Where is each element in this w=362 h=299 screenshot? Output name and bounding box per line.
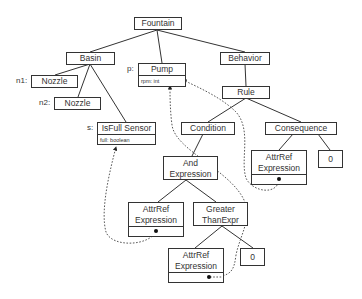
attrref-left-title: AttrRef Expression xyxy=(129,203,183,226)
consequence-node[interactable]: Consequence xyxy=(265,122,337,135)
zero-consequence-value: 0 xyxy=(319,154,342,165)
sensor-title: IsFull Sensor xyxy=(98,123,155,134)
fountain-title: Fountain xyxy=(135,18,181,29)
behavior-title: Behavior xyxy=(221,53,269,64)
zero-consequence-node[interactable]: 0 xyxy=(318,150,343,168)
condition-node[interactable]: Condition xyxy=(181,122,235,135)
basin-node[interactable]: Basin xyxy=(66,52,115,65)
rule-title: Rule xyxy=(223,87,269,98)
attrref-consequence-reference-slot xyxy=(252,174,306,184)
greater-than-title: Greater ThanExpr xyxy=(194,203,247,226)
nozzle1-role-label: n1: xyxy=(16,76,27,86)
pump-rpm-attribute: rpm: int xyxy=(139,75,185,86)
diagram-canvas: Fountain Basin n1: Nozzle n2: Nozzle p: … xyxy=(0,0,362,299)
consequence-title: Consequence xyxy=(266,123,336,134)
attrref-consequence-node[interactable]: AttrRef Expression xyxy=(251,150,307,185)
pump-role-label: p: xyxy=(127,64,134,74)
behavior-node[interactable]: Behavior xyxy=(220,52,270,65)
attrref-consequence-title: AttrRef Expression xyxy=(252,151,306,174)
fountain-node[interactable]: Fountain xyxy=(134,17,182,30)
attrref-bottom-title: AttrRef Expression xyxy=(169,249,223,272)
pump-title: Pump xyxy=(139,64,185,75)
and-expression-title: And Expression xyxy=(164,157,217,180)
condition-title: Condition xyxy=(182,123,234,134)
rule-node[interactable]: Rule xyxy=(222,86,270,99)
sensor-full-attribute: full: boolean xyxy=(98,134,155,145)
zero-bottom-value: 0 xyxy=(241,252,264,263)
attrref-left-node[interactable]: AttrRef Expression xyxy=(128,202,184,237)
attrref-bottom-node[interactable]: AttrRef Expression xyxy=(168,248,224,283)
nozzle2-title: Nozzle xyxy=(55,98,100,109)
and-expression-node[interactable]: And Expression xyxy=(163,156,218,180)
nozzle1-node[interactable]: Nozzle xyxy=(31,75,78,88)
attrref-bottom-reference-slot xyxy=(169,272,223,282)
sensor-node[interactable]: IsFull Sensor full: boolean xyxy=(97,122,156,145)
sensor-role-label: s: xyxy=(87,123,93,133)
nozzle1-title: Nozzle xyxy=(32,76,77,87)
attrref-left-reference-slot xyxy=(129,226,183,236)
nozzle2-role-label: n2: xyxy=(39,98,50,108)
basin-title: Basin xyxy=(67,53,114,64)
greater-than-node[interactable]: Greater ThanExpr xyxy=(193,202,248,226)
zero-bottom-node[interactable]: 0 xyxy=(240,248,265,266)
pump-node[interactable]: Pump rpm: int xyxy=(138,63,186,87)
nozzle2-node[interactable]: Nozzle xyxy=(54,97,101,110)
